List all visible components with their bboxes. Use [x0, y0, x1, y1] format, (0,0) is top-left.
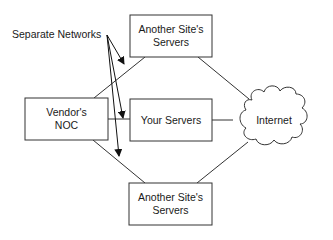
site-bottom-label: Another Site's Servers: [129, 191, 212, 217]
link-noc-bottom: [93, 140, 145, 183]
site-top-line1: Another Site's: [130, 23, 212, 36]
your-servers-label: Your Servers: [130, 114, 212, 127]
site-bottom-line2: Servers: [129, 204, 212, 217]
link-noc-top: [94, 57, 145, 98]
site-top-line2: Servers: [130, 36, 212, 49]
vendor-noc-line2: NOC: [25, 119, 108, 132]
site-bottom-line1: Another Site's: [129, 191, 212, 204]
link-top-internet: [198, 57, 249, 99]
separate-networks-label: Separate Networks: [12, 28, 101, 41]
internet-label: Internet: [246, 114, 302, 127]
site-top-label: Another Site's Servers: [130, 23, 212, 49]
vendor-noc-line1: Vendor's: [25, 106, 108, 119]
link-bottom-internet: [197, 142, 248, 183]
vendor-noc-label: Vendor's NOC: [25, 106, 108, 132]
